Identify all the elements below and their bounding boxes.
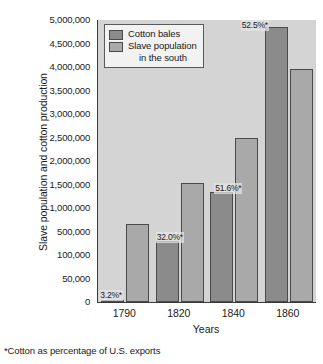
y-axis-tick-label: 500,000 (22, 227, 90, 237)
bar-cotton-bales-1840 (210, 192, 233, 302)
y-axis-tick-label: 1,000,000 (22, 203, 90, 213)
bar-slave-population-1860 (290, 69, 313, 302)
y-axis-tick-label: 3,500,000 (22, 86, 90, 96)
y-axis-tick-label: 2,000,000 (22, 156, 90, 166)
legend-item-cotton-bales: Cotton bales (109, 28, 197, 40)
x-axis-tick-label-1840: 1840 (222, 307, 245, 319)
y-axis-tick-label: 50,000 (22, 274, 90, 284)
chart-footnote: *Cotton as percentage of U.S. exports (4, 345, 160, 356)
y-axis-tick-label: 100,000 (22, 250, 90, 260)
x-axis-tick-label-1790: 1790 (113, 307, 136, 319)
percent-annotation-1860: 52.5%* (241, 20, 269, 31)
percent-annotation-1820: 32.0%* (156, 232, 184, 243)
percent-annotation-1840: 51.6%* (214, 183, 242, 194)
x-axis-tick-label-1860: 1860 (276, 307, 299, 319)
legend-swatch-cotton-bales (109, 30, 123, 40)
y-axis-tick-label: 1,500,000 (22, 180, 90, 190)
x-axis-tick-label-1820: 1820 (167, 307, 190, 319)
legend-item-slave-population: Slave population (109, 40, 197, 52)
x-axis-tick-labels: 1790182018401860 (97, 307, 315, 321)
x-axis-title: Years (97, 323, 315, 335)
bar-cotton-bales-1820 (156, 241, 179, 302)
y-axis-tick-label: 0 (22, 297, 90, 307)
y-axis-tick-label: 4,000,000 (22, 62, 90, 72)
y-axis-tick-label: 5,000,000 (22, 15, 90, 25)
chart-figure: Slave population and cotton production 0… (0, 0, 323, 364)
y-axis-tick-label: 4,500,000 (22, 39, 90, 49)
bar-cotton-bales-1860 (265, 27, 288, 302)
bar-slave-population-1820 (181, 183, 204, 302)
y-axis-tick-label: 2,500,000 (22, 133, 90, 143)
y-axis-tick-labels: 050,000100,000500,0001,000,0001,500,0002… (22, 0, 90, 364)
y-axis-tick-label: 3,000,000 (22, 109, 90, 119)
legend-label-slave-population-cont: in the south (139, 52, 197, 63)
chart-legend: Cotton bales Slave population in the sou… (104, 24, 204, 68)
bar-slave-population-1790 (126, 224, 149, 302)
legend-label-cotton-bales: Cotton bales (128, 28, 180, 40)
legend-swatch-slave-population (109, 42, 123, 52)
percent-annotation-1790: 3.2%* (99, 290, 123, 301)
legend-label-slave-population: Slave population (128, 40, 197, 52)
bar-slave-population-1840 (235, 138, 258, 302)
